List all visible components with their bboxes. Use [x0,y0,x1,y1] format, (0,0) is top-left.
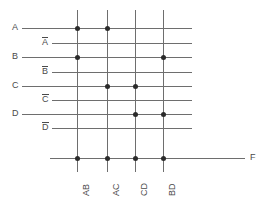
connection-dot-F-AB [75,156,80,161]
input-label-An: A [42,37,48,47]
connection-dot-F-BD [161,156,166,161]
input-label-C: C [12,80,19,90]
overbar-Bn: B [42,66,48,76]
output-label-F: F [250,152,256,162]
input-line-Bn [52,72,192,73]
product-label-BD: BD [167,183,177,196]
product-label-CD: CD [139,183,149,196]
connection-dot-B-BD [161,55,166,60]
connection-dot-A-AC [105,26,110,31]
overbar-Cn: C [42,94,49,104]
product-label-AB: AB [81,184,91,196]
input-label-Bn: B [42,66,48,76]
connection-dot-D-BD [161,112,166,117]
connection-dot-F-CD [133,156,138,161]
input-label-Cn: C [42,94,49,104]
input-line-An [52,43,192,44]
input-label-B: B [12,51,18,61]
product-line-AC [107,10,108,172]
pla-crossbar-diagram: AABBCCDDABACCDBDF [0,0,268,202]
input-line-Cn [52,100,192,101]
product-line-AB [77,10,78,172]
product-line-BD [163,10,164,172]
connection-dot-C-CD [133,84,138,89]
connection-dot-F-AC [105,156,110,161]
connection-dot-A-AB [75,26,80,31]
connection-dot-B-AB [75,55,80,60]
input-label-Dn: D [42,122,49,132]
connection-dot-D-CD [133,112,138,117]
input-label-D: D [12,108,19,118]
overbar-An: A [42,37,48,47]
overbar-Dn: D [42,122,49,132]
product-label-AC: AC [111,183,121,196]
product-line-CD [135,10,136,172]
input-line-Dn [52,128,192,129]
input-label-A: A [12,22,18,32]
connection-dot-C-AC [105,84,110,89]
